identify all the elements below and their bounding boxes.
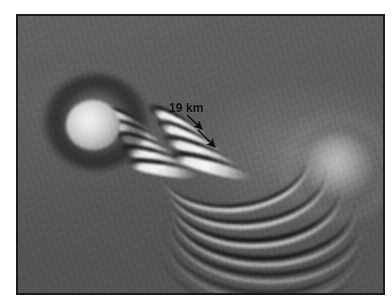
radar-image-frame: 19 km <box>16 14 385 295</box>
speckle-noise-fine <box>18 16 383 293</box>
radar-image-canvas: 19 km <box>18 16 383 293</box>
figure-root: 19 km <box>0 0 392 304</box>
